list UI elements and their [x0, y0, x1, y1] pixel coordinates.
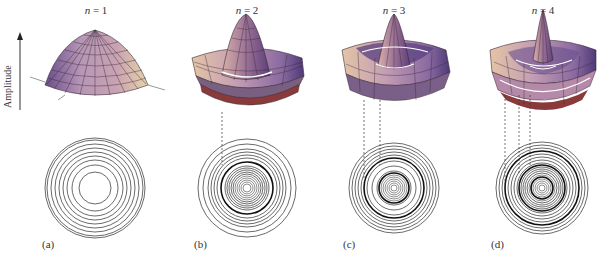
contour-plot-d [496, 142, 588, 234]
contour-ring [67, 160, 123, 216]
nodal-projection-lines [222, 95, 530, 185]
mode-label-n4: n = 4 [532, 4, 555, 16]
surface-plot-n2 [192, 14, 304, 105]
contour-plot-c [349, 143, 439, 233]
surface-plot-n1 [30, 30, 165, 100]
contour-ring [51, 144, 139, 232]
mode-label-n1: n = 1 [85, 4, 108, 16]
contour-plot-b [198, 139, 296, 237]
contour-ring [79, 172, 111, 204]
contour-ring [63, 156, 127, 220]
amplitude-axis-label: Amplitude [2, 65, 13, 108]
contour-plot-a [45, 138, 145, 238]
panel-label-a: (a) [42, 238, 54, 250]
panel-label-d: (d) [491, 238, 504, 250]
panel-label-c: (c) [343, 238, 355, 250]
contour-ring [59, 152, 131, 224]
arrowhead-icon [17, 32, 23, 40]
surface-plot-n3 [342, 14, 450, 101]
contour-ring [47, 140, 143, 236]
amplitude-axis [17, 32, 23, 110]
mode-label-n2: n = 2 [236, 4, 259, 16]
figure-canvas [0, 0, 600, 263]
mode-label-n3: n = 3 [383, 4, 406, 16]
contour-rings-layer [45, 138, 588, 238]
panel-label-b: (b) [194, 238, 207, 250]
contour-ring [45, 138, 145, 238]
surface-plot-n4 [490, 10, 596, 110]
drumhead-modes-figure: n = 1 n = 2 n = 3 n = 4 Amplitude (a) (b… [0, 0, 600, 263]
